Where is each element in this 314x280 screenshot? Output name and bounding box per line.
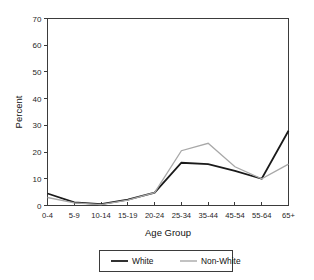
x-tick-label: 20-24 bbox=[145, 211, 164, 220]
chart-legend: WhiteNon-White bbox=[100, 251, 241, 272]
chart-figure: 010203040506070 0-45-910-1415-1920-2425-… bbox=[0, 0, 314, 280]
x-tick-label: 55-64 bbox=[252, 211, 271, 220]
y-tick-label: 0 bbox=[37, 202, 42, 211]
x-tick-label: 5-9 bbox=[69, 211, 80, 220]
y-tick-label: 30 bbox=[33, 121, 42, 130]
legend-label-non-white: Non-White bbox=[201, 256, 241, 266]
x-tick-label: 0-4 bbox=[42, 211, 53, 220]
y-axis-title: Percent bbox=[13, 95, 24, 128]
x-tick-label: 65+ bbox=[282, 211, 295, 220]
y-tick-label: 50 bbox=[33, 68, 42, 77]
x-tick-label: 10-14 bbox=[91, 211, 110, 220]
x-tick-label: 45-54 bbox=[225, 211, 244, 220]
y-tick-label: 60 bbox=[33, 41, 42, 50]
y-tick-label: 20 bbox=[33, 148, 42, 157]
x-tick-label: 25-34 bbox=[172, 211, 191, 220]
legend-label-white: White bbox=[132, 256, 154, 266]
y-tick-label: 10 bbox=[33, 175, 42, 184]
x-tick-label: 15-19 bbox=[118, 211, 137, 220]
line-chart: 010203040506070 0-45-910-1415-1920-2425-… bbox=[0, 0, 314, 280]
x-axis-title: Age Group bbox=[145, 227, 191, 238]
x-tick-label: 35-44 bbox=[198, 211, 217, 220]
y-tick-label: 40 bbox=[33, 95, 42, 104]
y-tick-label: 70 bbox=[33, 15, 42, 24]
